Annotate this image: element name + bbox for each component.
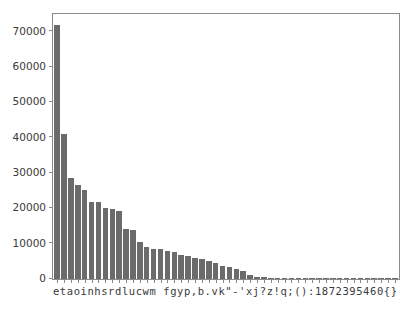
x-axis-tick-mark (161, 279, 162, 283)
x-axis-tick-mark (298, 279, 299, 283)
y-axis-tick-label: 60000 (13, 59, 46, 73)
x-axis-tick-mark (236, 279, 237, 283)
x-axis-tick-mark (119, 279, 120, 283)
bar (158, 249, 164, 279)
y-axis-tick-label: 30000 (13, 165, 46, 179)
bar (220, 266, 226, 279)
x-axis-tick-mark (278, 279, 279, 283)
x-axis-tick-mark (57, 279, 58, 283)
x-axis-tick-mark (291, 279, 292, 283)
x-axis-tick-mark (64, 279, 65, 283)
y-axis-tick-mark (49, 242, 53, 243)
x-axis-tick-mark (98, 279, 99, 283)
x-axis-tick-mark (374, 279, 375, 283)
bar (192, 258, 198, 279)
x-axis-tick-mark (154, 279, 155, 283)
y-axis-tick-mark (49, 207, 53, 208)
y-axis-tick-mark (49, 172, 53, 173)
bar (151, 249, 157, 279)
x-axis-tick-mark (71, 279, 72, 283)
plot-area (53, 14, 399, 279)
x-axis-tick-mark (188, 279, 189, 283)
x-axis-tick-mark (209, 279, 210, 283)
bar (172, 252, 178, 279)
x-axis-tick-mark (264, 279, 265, 283)
x-axis-tick-mark (85, 279, 86, 283)
y-axis-tick-mark (49, 101, 53, 102)
x-axis-tick-mark (147, 279, 148, 283)
x-axis-tick-mark (333, 279, 334, 283)
bar (116, 211, 122, 279)
y-axis-tick-mark (49, 66, 53, 67)
bar (68, 178, 74, 279)
bar (206, 261, 212, 279)
bar (75, 185, 81, 279)
y-axis-tick-label: 20000 (13, 200, 46, 214)
x-axis-tick-mark (181, 279, 182, 283)
x-axis-tick-mark (105, 279, 106, 283)
x-axis-tick-mark (354, 279, 355, 283)
x-axis-tick-mark (92, 279, 93, 283)
bar (199, 259, 205, 279)
x-axis-tick-mark (285, 279, 286, 283)
bar (123, 229, 129, 279)
x-axis-tick-mark (367, 279, 368, 283)
bar (110, 209, 116, 279)
x-axis-tick-mark (202, 279, 203, 283)
y-axis-tick-label: 50000 (13, 94, 46, 108)
y-axis-tick-label: 40000 (13, 130, 46, 144)
x-axis-tick-mark (112, 279, 113, 283)
x-axis-tick-mark (257, 279, 258, 283)
x-axis-tick-mark (167, 279, 168, 283)
y-axis-tick-mark (49, 278, 53, 279)
y-axis-tick-label: 70000 (13, 24, 46, 38)
x-axis-tick-label: } (388, 285, 400, 297)
bar (227, 267, 233, 279)
bar (61, 134, 67, 279)
x-axis-tick-mark (195, 279, 196, 283)
x-axis-tick-mark (340, 279, 341, 283)
bar (240, 271, 246, 279)
bar (234, 269, 240, 279)
x-axis-tick-mark (126, 279, 127, 283)
bar (185, 256, 191, 279)
x-axis-tick-mark (360, 279, 361, 283)
x-axis-tick-mark (388, 279, 389, 283)
y-axis-tick-label: 0 (39, 271, 46, 285)
x-axis-tick-mark (312, 279, 313, 283)
x-axis-tick-mark (140, 279, 141, 283)
bar (165, 251, 171, 279)
y-axis-tick-label: 10000 (13, 236, 46, 250)
figure: 010000200003000040000500006000070000 eta… (0, 0, 416, 314)
x-axis-tick-mark (395, 279, 396, 283)
x-axis-tick-mark (216, 279, 217, 283)
x-axis-tick-mark (305, 279, 306, 283)
x-axis-tick-mark (78, 279, 79, 283)
y-axis-tick-mark (49, 30, 53, 31)
x-axis-tick-mark (319, 279, 320, 283)
x-axis-tick-labels: etaoinhsrdlucwm fgyp,b.vk"-'xj?z!q;():18… (52, 285, 400, 301)
bar (137, 242, 143, 279)
x-axis-tick-mark (381, 279, 382, 283)
x-axis-tick-mark (243, 279, 244, 283)
x-axis-tick-mark (326, 279, 327, 283)
bar (130, 230, 136, 279)
y-axis-tick-mark (49, 136, 53, 137)
bar (54, 25, 60, 279)
bar (213, 263, 219, 279)
bar (144, 247, 150, 279)
bar (96, 202, 102, 279)
x-axis-tick-mark (174, 279, 175, 283)
x-axis-tick-mark (223, 279, 224, 283)
x-axis-tick-mark (271, 279, 272, 283)
bar (178, 255, 184, 279)
bar (82, 190, 88, 279)
chart-axes (52, 13, 400, 280)
x-axis-tick-mark (133, 279, 134, 283)
x-axis-tick-mark (347, 279, 348, 283)
bar (103, 208, 109, 279)
bar (89, 202, 95, 279)
x-axis-tick-mark (250, 279, 251, 283)
x-axis-tick-mark (229, 279, 230, 283)
